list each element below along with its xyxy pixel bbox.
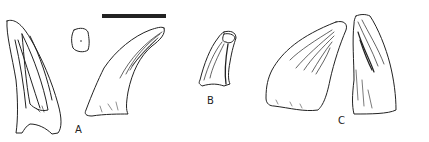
tooth-c-left [266, 21, 347, 110]
scale-bar [102, 14, 166, 18]
label-a: A [75, 124, 82, 135]
label-c: C [338, 115, 345, 126]
tooth-a-right [85, 27, 164, 116]
tooth-a-left [7, 20, 61, 134]
label-b: B [207, 95, 214, 106]
tooth-a-cross-section [72, 28, 90, 51]
tooth-drawings: A B C [0, 0, 429, 142]
tooth-b [199, 31, 236, 86]
tooth-c-right [353, 15, 397, 115]
